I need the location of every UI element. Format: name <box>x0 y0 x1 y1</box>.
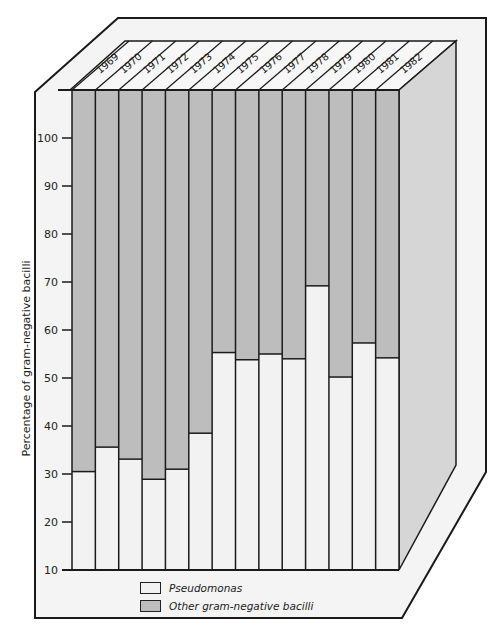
y-tick-label: 20 <box>44 516 58 529</box>
legend-item-pseudomonas: Pseudomonas <box>140 580 313 596</box>
bar-segment-pseudomonas <box>95 447 118 570</box>
bar-segment-other <box>236 90 259 360</box>
bar-segment-other <box>329 90 352 377</box>
bar-segment-pseudomonas <box>376 358 399 570</box>
bar-1977 <box>259 90 282 570</box>
bar-segment-pseudomonas <box>142 479 165 570</box>
legend-swatch-other <box>140 600 161 612</box>
bar-segment-other <box>119 90 142 459</box>
bar-1976 <box>236 90 259 570</box>
bar-1975 <box>212 90 235 570</box>
bar-1978 <box>282 90 305 570</box>
bar-1974 <box>189 90 212 570</box>
bar-segment-other <box>352 90 375 343</box>
bar-segment-pseudomonas <box>306 286 329 570</box>
bars-group <box>72 90 399 570</box>
bar-segment-other <box>189 90 212 433</box>
bar-1982 <box>376 90 399 570</box>
bar-segment-other <box>306 90 329 286</box>
bar-segment-pseudomonas <box>212 353 235 570</box>
y-tick-label: 60 <box>44 324 58 337</box>
y-tick-label: 10 <box>44 564 58 577</box>
bar-segment-pseudomonas <box>282 359 305 570</box>
y-axis-label: Percentage of gram-negative bacilli <box>20 254 33 464</box>
bar-segment-pseudomonas <box>165 469 188 570</box>
legend-item-other: Other gram-negative bacilli <box>140 598 313 614</box>
bar-segment-other <box>282 90 305 359</box>
bar-1981 <box>352 90 375 570</box>
bar-segment-pseudomonas <box>329 377 352 570</box>
y-tick-label: 90 <box>44 180 58 193</box>
y-tick-label: 50 <box>44 372 58 385</box>
bar-segment-pseudomonas <box>259 354 282 570</box>
y-tick-label: 100 <box>37 132 58 145</box>
bar-segment-other <box>212 90 235 353</box>
y-tick-label: 80 <box>44 228 58 241</box>
bar-segment-pseudomonas <box>352 343 375 570</box>
bar-1979 <box>306 90 329 570</box>
bar-segment-other <box>142 90 165 479</box>
bar-segment-pseudomonas <box>189 433 212 570</box>
bar-1980 <box>329 90 352 570</box>
legend: Pseudomonas Other gram-negative bacilli <box>140 580 313 616</box>
bar-segment-other <box>376 90 399 358</box>
bar-1970 <box>95 90 118 570</box>
legend-swatch-pseudomonas <box>140 582 161 594</box>
bar-1971 <box>119 90 142 570</box>
bar-segment-pseudomonas <box>236 360 259 570</box>
y-tick-label: 40 <box>44 420 58 433</box>
bar-1969 <box>72 90 95 570</box>
bar-segment-other <box>72 90 95 472</box>
legend-label-other: Other gram-negative bacilli <box>169 600 313 612</box>
legend-label-pseudomonas: Pseudomonas <box>169 582 242 594</box>
bar-segment-other <box>259 90 282 354</box>
y-tick-label: 30 <box>44 468 58 481</box>
chart-figure: 1969197019711972197319741975197619771978… <box>0 0 499 634</box>
chart-svg: 1969197019711972197319741975197619771978… <box>0 0 499 634</box>
bar-segment-other <box>165 90 188 469</box>
bar-1973 <box>165 90 188 570</box>
bar-segment-other <box>95 90 118 447</box>
bar-1972 <box>142 90 165 570</box>
bar-segment-pseudomonas <box>72 472 95 570</box>
y-tick-label: 70 <box>44 276 58 289</box>
bar-segment-pseudomonas <box>119 459 142 570</box>
